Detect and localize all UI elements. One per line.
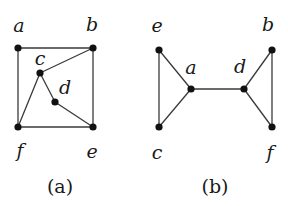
panel-a bbox=[14, 44, 96, 130]
vertex-label-a: a bbox=[185, 58, 196, 77]
panel-b bbox=[155, 46, 275, 130]
graph-edge-c-d bbox=[40, 73, 55, 102]
vertex-label-f: f bbox=[266, 143, 273, 162]
graph-edge-c-f bbox=[18, 73, 40, 127]
graph-edge-d-b bbox=[244, 50, 272, 89]
graph-vertex-b bbox=[268, 46, 275, 53]
graph-edge-d-e bbox=[55, 102, 93, 127]
graph-vertex-b bbox=[89, 44, 96, 51]
vertex-label-a: a bbox=[13, 16, 24, 35]
graph-edge-c-a bbox=[159, 89, 191, 127]
vertex-label-c: c bbox=[35, 49, 46, 68]
vertex-label-d: d bbox=[234, 57, 246, 76]
vertex-label-f: f bbox=[16, 141, 23, 160]
graph-vertex-e bbox=[155, 46, 162, 53]
panel-caption-panel-a: (a) bbox=[47, 177, 73, 196]
graph-vertex-c bbox=[155, 123, 162, 130]
graph-vertex-a bbox=[187, 85, 194, 92]
graph-vertex-c bbox=[36, 69, 43, 76]
vertex-label-d: d bbox=[59, 78, 71, 97]
figure-page: abcdfe(a)ecadbf(b) bbox=[0, 0, 288, 206]
graph-vertex-f bbox=[14, 123, 21, 130]
vertex-label-e: e bbox=[151, 16, 162, 35]
panel-caption-panel-b: (b) bbox=[202, 177, 229, 196]
vertex-label-e: e bbox=[86, 142, 97, 161]
vertex-label-c: c bbox=[152, 143, 163, 162]
graph-figure-canvas bbox=[0, 0, 288, 206]
graph-edge-c-b bbox=[40, 48, 93, 73]
graph-vertex-f bbox=[268, 123, 275, 130]
vertex-label-b: b bbox=[262, 15, 274, 34]
graph-vertex-d bbox=[51, 98, 58, 105]
graph-edge-d-f bbox=[244, 89, 272, 127]
graph-vertex-e bbox=[89, 123, 96, 130]
vertex-label-b: b bbox=[86, 15, 98, 34]
graph-vertex-a bbox=[14, 44, 21, 51]
graph-vertex-d bbox=[240, 85, 247, 92]
